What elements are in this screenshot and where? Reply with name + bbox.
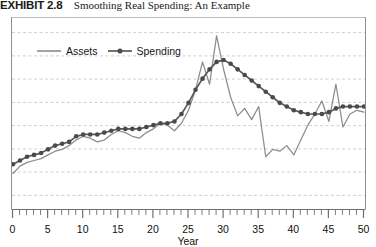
spending-data-point <box>242 73 247 78</box>
chart-legend: Assets Spending <box>36 45 181 57</box>
spending-data-point <box>221 58 226 63</box>
x-tick-label: 10 <box>77 223 89 235</box>
x-tick-label: 50 <box>358 223 370 235</box>
x-axis <box>11 209 366 223</box>
x-tick-label: 0 <box>10 223 16 235</box>
spending-data-point <box>306 112 311 117</box>
legend-assets-label: Assets <box>66 45 98 57</box>
exhibit-number-label: EXHIBIT 2.8 <box>0 0 62 11</box>
spending-data-point <box>88 132 93 137</box>
spending-data-point <box>348 104 353 109</box>
spending-data-point <box>207 67 212 72</box>
spending-data-point <box>165 121 170 126</box>
spending-data-point <box>123 127 128 132</box>
spending-data-point <box>18 158 23 163</box>
spending-data-point <box>109 128 114 133</box>
spending-data-point <box>74 134 79 139</box>
x-tick-label: 20 <box>147 223 159 235</box>
spending-data-point <box>116 127 121 132</box>
spending-data-point <box>313 112 318 117</box>
plot-border-right <box>365 17 366 209</box>
spending-data-point <box>249 78 254 83</box>
spending-data-point <box>256 84 261 89</box>
spending-data-point <box>277 101 282 106</box>
legend-spending-swatch <box>107 46 133 56</box>
x-tick-label: 5 <box>45 223 51 235</box>
plot-frame: Assets Spending <box>11 17 366 209</box>
spending-data-point <box>95 132 100 137</box>
spending-data-point <box>102 130 107 135</box>
spending-data-point <box>67 140 72 145</box>
spending-data-point <box>151 123 156 128</box>
spending-data-point <box>228 61 233 66</box>
x-axis-ticks <box>11 209 366 223</box>
legend-entry-spending: Spending <box>107 45 181 57</box>
spending-data-point <box>39 151 44 156</box>
spending-data-point <box>362 104 365 109</box>
spending-data-point <box>172 119 177 124</box>
spending-data-point <box>60 141 65 146</box>
page-title: Smoothing Real Spending: An Example <box>74 0 250 11</box>
x-tick-label: 15 <box>112 223 124 235</box>
spending-data-point <box>46 147 51 152</box>
spending-data-point <box>270 95 275 100</box>
spending-data-point <box>130 127 135 132</box>
x-axis-label: Year <box>0 235 376 247</box>
exhibit-title-row: EXHIBIT 2.8 Smoothing Real Spending: An … <box>0 0 376 11</box>
spending-data-point <box>81 132 86 137</box>
spending-data-point <box>179 112 184 117</box>
chart-figure: Assets Spending 05101520253035404550 Yea… <box>0 11 376 239</box>
spending-data-point <box>320 112 325 117</box>
spending-data-point <box>299 110 304 115</box>
spending-data-point <box>25 154 30 159</box>
legend-assets-swatch <box>36 46 62 56</box>
spending-data-point <box>292 108 297 113</box>
x-tick-label: 45 <box>323 223 335 235</box>
spending-data-point <box>214 60 219 65</box>
spending-data-point <box>53 143 58 148</box>
legend-entry-assets: Assets <box>36 45 98 57</box>
spending-data-point <box>263 89 268 94</box>
spending-data-point <box>186 101 191 106</box>
legend-spending-label: Spending <box>137 45 181 57</box>
x-tick-label: 25 <box>182 223 194 235</box>
spending-data-point <box>355 104 360 109</box>
spending-data-point <box>137 127 142 132</box>
x-tick-label: 40 <box>287 223 299 235</box>
spending-data-point <box>158 121 163 126</box>
x-tick-label: 30 <box>217 223 229 235</box>
x-tick-label: 35 <box>252 223 264 235</box>
spending-data-point <box>235 67 240 72</box>
spending-data-point <box>200 76 205 81</box>
spending-data-point <box>334 106 339 111</box>
spending-data-point <box>327 110 332 115</box>
spending-data-point <box>144 125 149 130</box>
spending-data-point <box>193 88 198 93</box>
spending-data-point <box>32 153 37 158</box>
spending-markers-group <box>12 58 365 167</box>
spending-data-point <box>341 104 346 109</box>
spending-data-point <box>284 104 289 109</box>
